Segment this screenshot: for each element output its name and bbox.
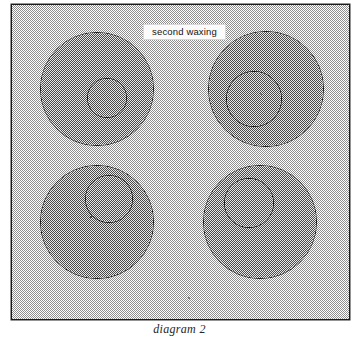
phase-label-text: second waxing [152, 27, 217, 37]
scan-speck [90, 216, 92, 218]
phase-top-left [40, 32, 154, 146]
phase-bottom-right-inner-circle [224, 178, 274, 228]
scan-speck [260, 93, 262, 95]
phase-label-chip: second waxing [143, 24, 226, 40]
scan-speck [188, 297, 190, 299]
diagram-panel: second waxing [11, 4, 350, 320]
phase-top-left-inner-circle [87, 78, 127, 118]
phase-bottom-left-inner-circle [85, 175, 133, 223]
phase-bottom-right [203, 165, 317, 279]
diagram-figure: second waxing [0, 0, 359, 337]
panel-interior: second waxing [12, 5, 349, 319]
phase-bottom-left [40, 165, 154, 279]
phase-top-right-inner-circle [226, 71, 282, 127]
phase-top-right [208, 31, 324, 147]
figure-caption: diagram 2 [0, 322, 359, 336]
